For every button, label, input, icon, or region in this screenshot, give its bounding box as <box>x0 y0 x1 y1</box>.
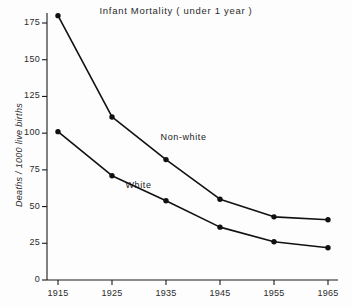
data-point-white-1965 <box>325 245 330 250</box>
data-series <box>55 13 330 250</box>
data-point-non-white-1965 <box>325 217 330 222</box>
data-point-non-white-1935 <box>163 157 168 162</box>
data-point-non-white-1925 <box>109 114 114 119</box>
data-point-white-1945 <box>217 224 222 229</box>
data-point-white-1915 <box>55 129 60 134</box>
plot-canvas <box>0 0 352 307</box>
series-line-non-white <box>58 16 328 220</box>
data-point-non-white-1945 <box>217 197 222 202</box>
data-point-white-1925 <box>109 173 114 178</box>
series-line-white <box>58 132 328 248</box>
data-point-white-1935 <box>163 198 168 203</box>
data-point-non-white-1915 <box>55 13 60 18</box>
data-point-white-1955 <box>271 239 276 244</box>
data-point-non-white-1955 <box>271 214 276 219</box>
infant-mortality-chart: Infant Mortality ( under 1 year ) Deaths… <box>0 0 352 307</box>
